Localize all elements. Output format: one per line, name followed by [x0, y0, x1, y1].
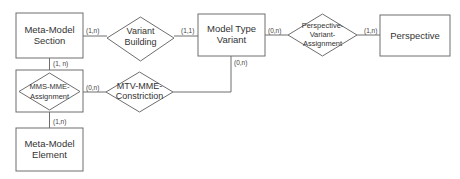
entity-label-line1: Model Type	[207, 23, 256, 34]
relationship-label-line1: Perspective-	[302, 21, 344, 30]
entity-meta-model-section[interactable]: Meta-Model Section	[16, 13, 83, 58]
relationship-mms-mme-assignment[interactable]: MMS-MME- Assignment	[16, 70, 83, 112]
cardinality-mtv-mtvmme: (0,n)	[234, 59, 247, 67]
relationship-mtv-mme-constriction[interactable]: MTV-MME- Constriction	[106, 72, 173, 112]
entity-model-type-variant[interactable]: Model Type Variant	[198, 14, 265, 56]
entity-perspective[interactable]: Perspective	[380, 15, 450, 56]
er-diagram: Meta-Model Section Variant Building Mode…	[0, 0, 460, 179]
relationship-variant-building[interactable]: Variant Building	[107, 17, 174, 61]
entity-label-line2: Element	[32, 149, 67, 160]
entity-label-line1: Meta-Model	[24, 24, 74, 35]
relationship-label-line1: Variant	[127, 26, 155, 36]
entity-label-line2: Section	[34, 35, 66, 46]
relationship-label-line3: Assignment	[303, 39, 343, 48]
cardinality-mms-vb: (1,n)	[86, 27, 99, 35]
cardinality-mms-mmsmme: (1, n)	[53, 60, 68, 68]
cardinality-mmsmme-mme: (1,n)	[53, 118, 66, 126]
entity-meta-model-element[interactable]: Meta-Model Element	[16, 128, 83, 171]
entity-label-line1: Meta-Model	[24, 138, 74, 149]
relationship-label-line2: Variant-	[310, 30, 336, 39]
entity-label: Perspective	[390, 30, 440, 41]
relationship-label-line2: Assignment	[30, 92, 70, 101]
cardinality-mtv-pva: (0,n)	[268, 27, 281, 35]
relationship-label-line2: Constriction	[116, 91, 164, 101]
relationship-label-line2: Building	[124, 37, 156, 47]
relationship-label-line1: MMS-MME-	[30, 82, 70, 91]
cardinality-vb-mtv: (1,1)	[181, 27, 194, 35]
cardinality-mmsmme-mtvmme: (0,n)	[86, 84, 99, 92]
cardinality-pva-persp: (1,n)	[364, 27, 377, 35]
entity-label-line2: Variant	[217, 34, 247, 45]
relationship-perspective-variant-assignment[interactable]: Perspective- Variant- Assignment	[288, 14, 357, 56]
relationship-label-line1: MTV-MME-	[117, 81, 163, 91]
edge-mtv-mtvmme	[173, 56, 231, 92]
